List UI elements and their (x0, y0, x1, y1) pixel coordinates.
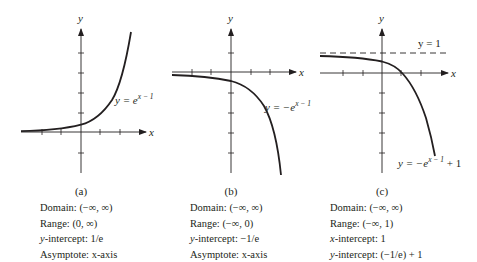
asymptote-label-c: y = 1 (418, 37, 441, 49)
graph-a: y x y = ex − 1 (21, 12, 154, 173)
equation-b: y = −ex − 1 (264, 99, 311, 113)
equation-a: y = ex − 1 (114, 92, 154, 106)
y-axis-label-a: y (77, 12, 83, 24)
asymptote-line-a: Asymptote: x-axis (40, 247, 117, 262)
domain-line-a: Domain: (−∞, ∞) (40, 200, 117, 216)
range-line-a: Range: (0, ∞) (40, 216, 117, 232)
intercept-line-a: y-intercept: 1/e (40, 231, 117, 247)
y-axis-label-c: y (378, 12, 384, 24)
domain-line-b: Domain: (−∞, ∞) (190, 200, 267, 216)
graph-c: y x y = 1 y = −ex − 1 + 1 (320, 12, 461, 173)
y-intercept-line-c: y-intercept: (−1/e) + 1 (330, 247, 423, 262)
info-block-b: Domain: (−∞, ∞) Range: (−∞, 0) y-interce… (190, 200, 267, 262)
x-axis-label-b: x (298, 66, 304, 78)
range-line-c: Range: (−∞, 1) (330, 216, 423, 232)
x-intercept-line-c: x-intercept: 1 (330, 231, 423, 247)
x-axis-label-a: x (148, 126, 154, 138)
equation-c: y = −ex − 1 + 1 (397, 155, 461, 169)
asymptote-line-b: Asymptote: x-axis (190, 247, 267, 262)
caption-c: (c) (367, 185, 397, 197)
intercept-line-b: y-intercept: −1/e (190, 231, 267, 247)
range-line-b: Range: (−∞, 0) (190, 216, 267, 232)
curve-c (320, 56, 435, 156)
info-block-c: Domain: (−∞, ∞) Range: (−∞, 1) x-interce… (330, 200, 423, 262)
curve-b (172, 75, 281, 175)
curve-a (21, 32, 131, 131)
x-axis-label-c: x (450, 67, 456, 79)
info-block-a: Domain: (−∞, ∞) Range: (0, ∞) y-intercep… (40, 200, 117, 262)
domain-line-c: Domain: (−∞, ∞) (330, 200, 423, 216)
caption-b: (b) (216, 185, 246, 197)
graph-b: y x y = −ex − 1 (172, 12, 311, 175)
caption-a: (a) (66, 185, 96, 197)
y-axis-label-b: y (227, 12, 233, 24)
